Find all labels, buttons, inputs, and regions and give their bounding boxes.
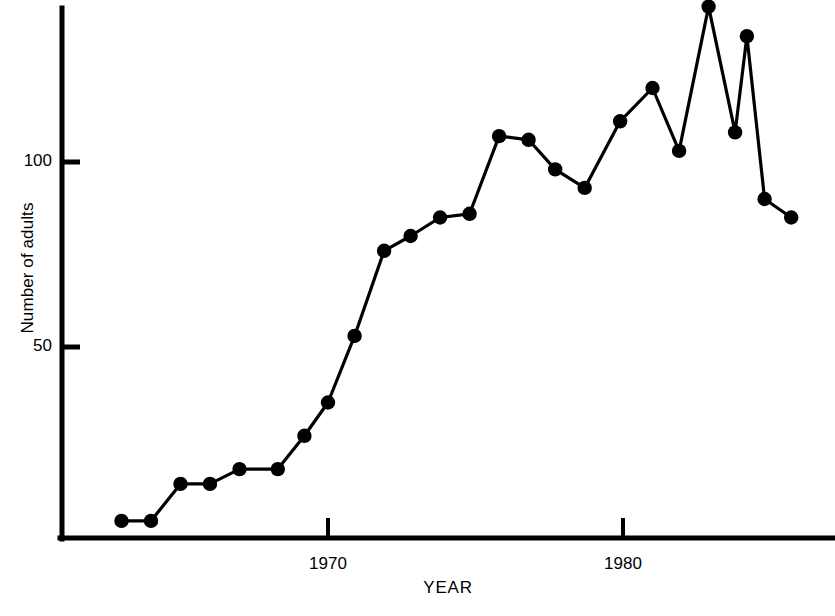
data-point: [203, 477, 217, 491]
data-point: [645, 81, 659, 95]
axes-group: [60, 8, 835, 539]
x-axis-label: YEAR: [388, 578, 508, 598]
data-point: [672, 144, 686, 158]
data-point: [784, 210, 798, 224]
data-point: [144, 514, 158, 528]
data-line: [122, 7, 792, 521]
data-point: [578, 181, 592, 195]
data-point: [521, 133, 535, 147]
data-point: [232, 462, 246, 476]
data-point: [297, 429, 311, 443]
data-point: [613, 114, 627, 128]
data-point: [347, 329, 361, 343]
data-point: [548, 162, 562, 176]
data-point: [701, 0, 715, 14]
x-tick-label-1980: 1980: [588, 554, 658, 574]
chart-canvas: [0, 0, 835, 616]
data-point: [271, 462, 285, 476]
data-point: [403, 229, 417, 243]
data-markers: [114, 0, 798, 528]
data-point: [321, 395, 335, 409]
data-point: [114, 514, 128, 528]
y-tick-label-100: 100: [6, 151, 52, 171]
series-group: [114, 0, 798, 528]
x-tick-label-1970: 1970: [293, 554, 363, 574]
data-point: [377, 244, 391, 258]
data-point: [757, 192, 771, 206]
data-point: [462, 207, 476, 221]
data-point: [433, 210, 447, 224]
y-axis-label: Number of adults: [18, 188, 38, 348]
data-point: [492, 129, 506, 143]
data-point: [173, 477, 187, 491]
line-chart-figure: Number of adults YEAR 100 50 1970 1980: [0, 0, 835, 616]
y-tick-label-50: 50: [6, 336, 52, 356]
data-point: [740, 29, 754, 43]
data-point: [728, 125, 742, 139]
